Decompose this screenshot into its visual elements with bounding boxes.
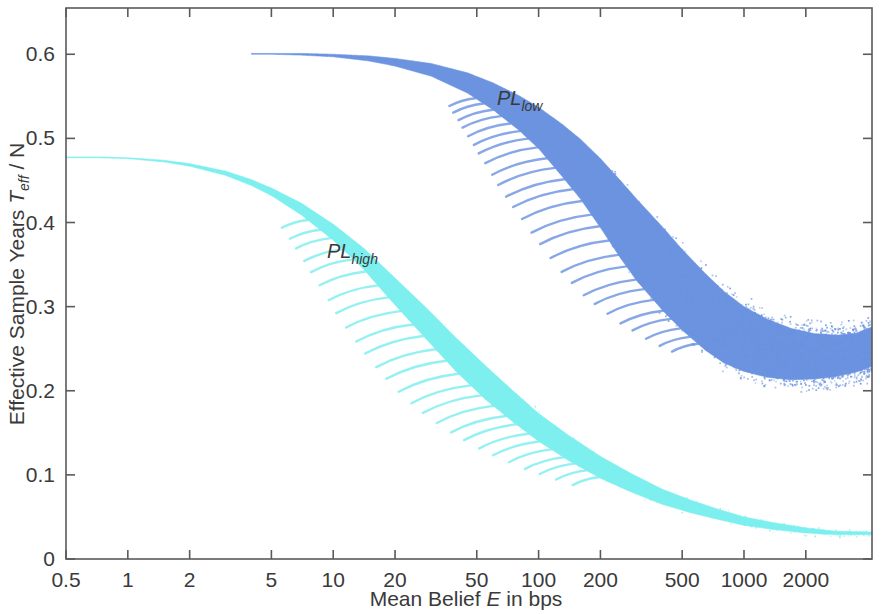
speckle-point <box>760 337 762 339</box>
speckle-point <box>542 438 544 440</box>
speckle-point <box>697 285 699 287</box>
speckle-point <box>566 441 568 443</box>
speckle-point <box>799 358 801 360</box>
speckle-point <box>841 362 843 364</box>
speckle-point <box>862 380 864 382</box>
speckle-point <box>770 319 772 321</box>
speckle-point <box>856 536 858 538</box>
speckle-point <box>640 273 642 275</box>
speckle-point <box>640 212 642 214</box>
speckle-point <box>691 328 693 330</box>
speckle-point <box>559 447 561 449</box>
speckle-point <box>817 382 819 384</box>
speckle-point <box>659 267 661 269</box>
speckle-point <box>450 353 452 355</box>
speckle-point <box>739 310 741 312</box>
speckle-point <box>857 340 859 342</box>
speckle-point <box>860 346 862 348</box>
speckle-point <box>801 350 803 352</box>
speckle-point <box>713 353 715 355</box>
speckle-point <box>783 355 785 357</box>
speckle-point <box>656 216 658 218</box>
speckle-point <box>815 361 817 363</box>
speckle-point <box>692 302 694 304</box>
speckle-point <box>705 293 707 295</box>
speckle-point <box>827 387 829 389</box>
speckle-point <box>712 330 714 332</box>
speckle-point <box>703 508 705 510</box>
speckle-point <box>826 377 828 379</box>
speckle-point <box>697 311 699 313</box>
speckle-point <box>859 336 861 338</box>
speckle-point <box>838 385 840 387</box>
speckle-point <box>656 492 658 494</box>
speckle-point <box>795 351 797 353</box>
speckle-point <box>867 369 869 371</box>
speckle-point <box>849 529 851 531</box>
speckle-point <box>778 361 780 363</box>
speckle-point <box>777 343 779 345</box>
speckle-point <box>815 356 817 358</box>
speckle-point <box>821 350 823 352</box>
speckle-point <box>820 321 822 323</box>
speckle-point <box>693 267 695 269</box>
speckle-point <box>703 327 705 329</box>
speckle-point <box>776 373 778 375</box>
speckle-point <box>767 356 769 358</box>
speckle-point <box>620 472 622 474</box>
speckle-point <box>693 290 695 292</box>
speckle-point <box>860 379 862 381</box>
speckle-point <box>847 334 849 336</box>
speckle-point <box>773 379 775 381</box>
speckle-point <box>776 528 778 530</box>
speckle-point <box>809 385 811 387</box>
speckle-point <box>834 373 836 375</box>
speckle-point <box>852 336 854 338</box>
speckle-point <box>824 358 826 360</box>
speckle-point <box>693 299 695 301</box>
speckle-point <box>766 364 768 366</box>
speckle-point <box>697 301 699 303</box>
speckle-point <box>789 328 791 330</box>
speckle-point <box>561 437 563 439</box>
speckle-point <box>641 484 643 486</box>
speckle-point <box>866 328 868 330</box>
speckle-point <box>765 366 767 368</box>
speckle-point <box>815 385 817 387</box>
speckle-point <box>604 467 606 469</box>
speckle-point <box>704 277 706 279</box>
speckle-point <box>711 518 713 520</box>
speckle-point <box>729 307 731 309</box>
x-axis-title-post: in bps <box>500 587 562 610</box>
speckle-point <box>794 357 796 359</box>
speckle-point <box>819 357 821 359</box>
speckle-point <box>820 385 822 387</box>
speckle-point <box>846 328 848 330</box>
speckle-point <box>534 419 536 421</box>
speckle-point <box>605 480 607 482</box>
speckle-point <box>721 343 723 345</box>
speckle-point <box>750 342 752 344</box>
speckle-point <box>646 494 648 496</box>
speckle-point <box>812 388 814 390</box>
speckle-point <box>754 523 756 525</box>
speckle-point <box>771 363 773 365</box>
speckle-point <box>830 374 832 376</box>
speckle-point <box>802 374 804 376</box>
speckle-point <box>780 329 782 331</box>
speckle-point <box>770 359 772 361</box>
speckle-point <box>683 314 685 316</box>
speckle-point <box>751 376 753 378</box>
speckle-point <box>624 253 626 255</box>
speckle-point <box>842 367 844 369</box>
speckle-point <box>525 427 527 429</box>
speckle-point <box>743 522 745 524</box>
speckle-point <box>725 307 727 309</box>
speckle-point <box>717 345 719 347</box>
speckle-point <box>763 319 765 321</box>
speckle-point <box>749 518 751 520</box>
speckle-point <box>748 350 750 352</box>
speckle-point <box>830 361 832 363</box>
speckle-point <box>705 264 707 266</box>
speckle-point <box>839 366 841 368</box>
